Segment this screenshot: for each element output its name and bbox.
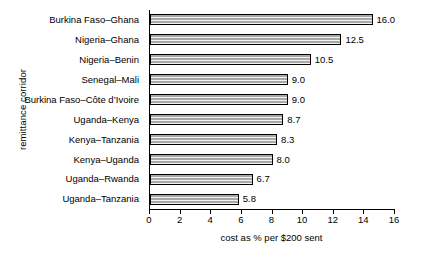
category-label: Uganda–Kenya — [74, 115, 140, 125]
bar — [150, 154, 273, 165]
category-label: Senegal–Mali — [81, 75, 139, 85]
category-label: Nigeria–Benin — [79, 55, 139, 65]
x-tick-label: 4 — [208, 215, 213, 225]
category-label-row: Uganda–Kenya — [12, 110, 144, 130]
bar-chart: remittance corridor Burkina Faso–Ghana N… — [0, 0, 426, 261]
bar-value-label: 8.7 — [287, 115, 300, 125]
bar-row: 16.0 — [150, 10, 395, 30]
category-label-row: Kenya–Tanzania — [12, 129, 144, 149]
x-tick-label: 6 — [238, 215, 243, 225]
category-label: Uganda–Tanzania — [62, 194, 139, 204]
bar — [150, 74, 288, 85]
category-label-row: Senegal–Mali — [12, 70, 144, 90]
category-label-row: Nigeria–Benin — [12, 50, 144, 70]
x-tick-label: 2 — [177, 215, 182, 225]
bar-row: 10.5 — [150, 50, 395, 70]
bar-hatch-pattern — [151, 75, 287, 84]
bar — [150, 14, 373, 25]
bar-value-label: 5.8 — [243, 194, 256, 204]
bar — [150, 94, 288, 105]
bar — [150, 54, 311, 65]
bar — [150, 134, 277, 145]
category-label: Nigeria–Ghana — [75, 35, 139, 45]
bar — [150, 194, 239, 205]
category-label: Burkina Faso–Ghana — [49, 15, 139, 25]
category-label-row: Burkina Faso–Côte d’Ivoire — [12, 90, 144, 110]
x-tick-label: 0 — [146, 215, 151, 225]
bar-hatch-pattern — [151, 95, 287, 104]
x-tick-label: 12 — [327, 215, 338, 225]
category-label: Kenya–Uganda — [74, 155, 140, 165]
plot-area: 16.0 12.5 10.5 9.0 9.0 8.7 8.3 8.0 6.7 5… — [149, 10, 395, 210]
x-axis-ticks: 0246810121416 — [149, 210, 394, 228]
x-tick-label: 8 — [269, 215, 274, 225]
category-label: Uganda–Rwanda — [66, 174, 139, 184]
category-labels: Burkina Faso–Ghana Nigeria–Ghana Nigeria… — [12, 10, 144, 209]
bar-hatch-pattern — [151, 35, 340, 44]
bar-row: 12.5 — [150, 30, 395, 50]
bar — [150, 174, 253, 185]
category-label-row: Nigeria–Ghana — [12, 30, 144, 50]
bar-row: 5.8 — [150, 189, 395, 209]
category-label-row: Uganda–Tanzania — [12, 189, 144, 209]
bar-hatch-pattern — [151, 155, 272, 164]
bar-value-label: 9.0 — [292, 95, 305, 105]
bar-value-label: 16.0 — [377, 15, 396, 25]
category-label-row: Kenya–Uganda — [12, 149, 144, 169]
bar-hatch-pattern — [151, 115, 282, 124]
bar-hatch-pattern — [151, 135, 276, 144]
bar-hatch-pattern — [151, 175, 252, 184]
x-tick-label: 10 — [297, 215, 308, 225]
bar-row: 8.0 — [150, 149, 395, 169]
category-label-row: Burkina Faso–Ghana — [12, 10, 144, 30]
bar-value-label: 8.3 — [281, 135, 294, 145]
category-label: Kenya–Tanzania — [69, 135, 139, 145]
bar-row: 9.0 — [150, 70, 395, 90]
bar-value-label: 9.0 — [292, 75, 305, 85]
category-label-row: Uganda–Rwanda — [12, 169, 144, 189]
bar-value-label: 10.5 — [315, 55, 334, 65]
x-tick-label: 14 — [358, 215, 369, 225]
bar-row: 8.7 — [150, 110, 395, 130]
bar-series: 16.0 12.5 10.5 9.0 9.0 8.7 8.3 8.0 6.7 5… — [150, 10, 395, 209]
bar-hatch-pattern — [151, 15, 372, 24]
category-label: Burkina Faso–Côte d’Ivoire — [24, 95, 139, 105]
bar-row: 9.0 — [150, 90, 395, 110]
bar-value-label: 6.7 — [257, 174, 270, 184]
x-axis-title: cost as % per $200 sent — [149, 232, 394, 243]
bar — [150, 114, 283, 125]
bar — [150, 34, 341, 45]
bar-row: 6.7 — [150, 169, 395, 189]
x-tick-label: 16 — [389, 215, 400, 225]
bar-hatch-pattern — [151, 195, 238, 204]
bar-value-label: 12.5 — [345, 35, 364, 45]
bar-row: 8.3 — [150, 129, 395, 149]
bar-hatch-pattern — [151, 55, 310, 64]
bar-value-label: 8.0 — [277, 155, 290, 165]
